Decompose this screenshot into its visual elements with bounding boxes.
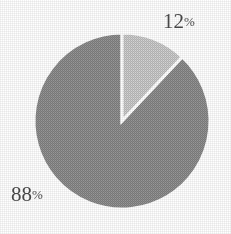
- pie-chart-figure: 12% 88%: [0, 0, 231, 234]
- pie-slice-value-88: 88: [11, 182, 32, 206]
- pie-slice-label-12: 12%: [163, 11, 194, 32]
- pie-slice-label-88: 88%: [11, 184, 42, 205]
- percent-sign-88: %: [32, 187, 42, 202]
- percent-sign-12: %: [184, 14, 194, 29]
- pie-slice-value-12: 12: [163, 9, 184, 33]
